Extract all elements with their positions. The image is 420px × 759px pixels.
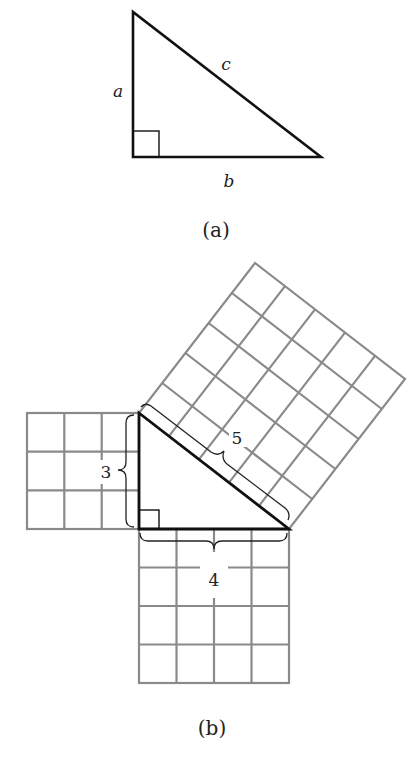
side-label-c: c — [221, 54, 231, 74]
brace-5 — [141, 404, 289, 520]
hypotenuse-square-grid — [139, 263, 405, 529]
brace-3 — [118, 415, 134, 527]
right-angle-marker-b — [139, 510, 159, 529]
side-length-4: 4 — [209, 570, 220, 590]
figure-a: a c b (a) — [113, 12, 321, 242]
right-angle-marker-a — [133, 131, 159, 157]
figure-b: 3 4 5 (b) — [27, 263, 405, 740]
caption-a: (a) — [202, 218, 230, 242]
side-label-a: a — [113, 81, 123, 101]
side-length-5: 5 — [232, 428, 243, 448]
right-triangle-a — [133, 12, 321, 157]
bottom-square-grid — [139, 529, 289, 683]
caption-b: (b) — [198, 716, 226, 740]
pythagorean-figure: a c b (a) — [0, 0, 420, 759]
right-triangle-b — [139, 413, 289, 529]
side-label-b: b — [224, 171, 235, 191]
side-length-3: 3 — [101, 462, 112, 482]
